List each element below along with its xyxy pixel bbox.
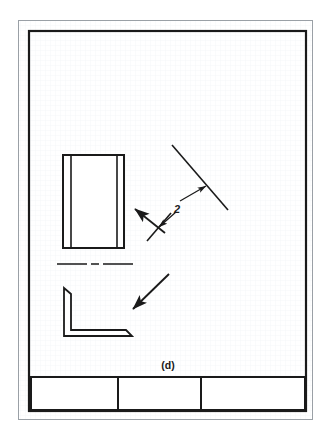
drawing-sheet: 2 (d) (0, 0, 326, 439)
technical-drawing-canvas: 2 (d) (0, 0, 326, 439)
title-block-outline (31, 377, 305, 410)
front-view-outline (63, 155, 124, 248)
rectangular-front-view (63, 155, 124, 248)
title-block (31, 377, 305, 410)
section-number-2: 2 (173, 203, 180, 215)
figure-label: (d) (161, 359, 174, 371)
